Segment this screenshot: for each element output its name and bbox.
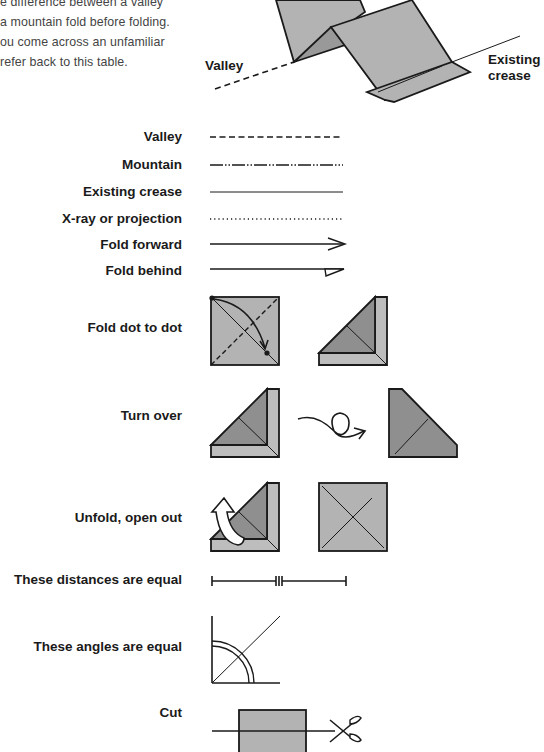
zigzag-fold-illustration [0, 0, 544, 110]
mountain-line-icon [210, 158, 345, 172]
symbol-label-valley: Valley [144, 129, 182, 144]
symbol-label-unfold: Unfold, open out [75, 510, 182, 525]
unfold-diagram [210, 482, 282, 554]
turn-over-loop-arrow-icon [296, 405, 371, 445]
turn-over-after-diagram [388, 388, 460, 460]
symbol-label-existing-crease: Existing crease [83, 184, 182, 199]
symbol-label-xray: X-ray or projection [62, 211, 182, 226]
xray-dotted-line-icon [210, 212, 345, 226]
symbol-label-turn-over: Turn over [121, 408, 182, 423]
fold-dot-to-dot-before-diagram [210, 296, 282, 368]
symbol-label-angles-equal: These angles are equal [33, 639, 182, 654]
fold-dot-to-dot-after-diagram [318, 296, 390, 368]
symbol-label-fold-forward: Fold forward [100, 237, 182, 252]
unfolded-square-diagram [318, 482, 390, 554]
symbol-label-cut: Cut [160, 705, 183, 720]
equal-distances-icon [210, 574, 350, 588]
symbol-label-mountain: Mountain [122, 157, 182, 172]
cut-scissors-diagram [210, 708, 370, 752]
turn-over-before-diagram [210, 388, 282, 460]
symbol-label-fold-behind: Fold behind [106, 263, 183, 278]
equal-angles-icon [210, 615, 282, 687]
symbol-label-distances-equal: These distances are equal [14, 572, 182, 587]
fold-behind-arrow-icon [210, 264, 350, 280]
valley-line-icon [210, 130, 345, 144]
existing-crease-line-icon [210, 185, 345, 199]
fold-forward-arrow-icon [210, 236, 350, 252]
symbol-label-fold-dot-to-dot: Fold dot to dot [88, 320, 182, 335]
